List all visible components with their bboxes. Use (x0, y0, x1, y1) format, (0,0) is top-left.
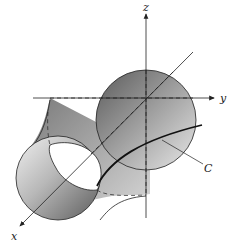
z-axis-label: z (142, 1, 149, 14)
tube-lower-outline (100, 196, 146, 220)
x-axis-label: x (11, 230, 18, 243)
curve-c-label: C (204, 162, 213, 175)
surface-diagram: z y x C (0, 0, 236, 246)
y-axis-label: y (219, 92, 227, 105)
